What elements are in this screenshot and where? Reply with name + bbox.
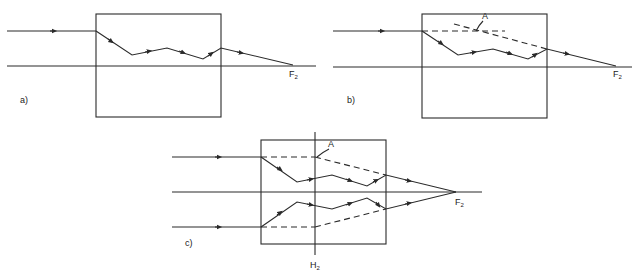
focus-label-b: F2 (613, 70, 622, 80)
focus-label-a: F2 (289, 70, 298, 80)
point-label-a-b: A (482, 12, 488, 21)
plane-label-h2: H2 (310, 261, 320, 271)
pointer-a-b (476, 21, 483, 31)
extended-exit-ray-b (454, 24, 547, 49)
refracted-ray-bottom-c (261, 192, 456, 227)
refracted-ray-a (96, 31, 293, 65)
refracted-ray-top-c (261, 157, 456, 192)
pointer-a-c (317, 149, 329, 157)
refracted-ray-b (422, 31, 616, 66)
panel-b (333, 14, 632, 118)
point-label-a-c: A (328, 140, 334, 149)
panel-label-c: c) (185, 239, 193, 248)
panel-label-a: a) (20, 96, 28, 105)
focus-label-c: F2 (455, 198, 464, 208)
optics-diagram (0, 0, 640, 274)
panel-a (7, 14, 316, 117)
panel-c (172, 132, 482, 255)
panel-label-b: b) (347, 96, 355, 105)
lens-box-b (422, 14, 547, 118)
